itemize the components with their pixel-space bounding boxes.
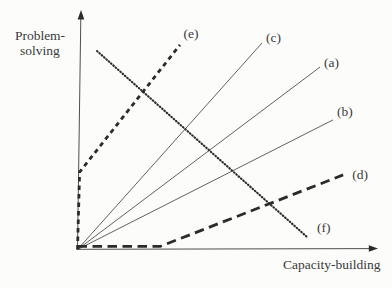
series-label-c: (c) (266, 30, 281, 45)
series-line-b (78, 120, 333, 250)
x-axis (78, 249, 371, 250)
series-line-d (78, 175, 344, 247)
y-axis-arrowhead-icon (78, 10, 85, 20)
conceptual-line-chart: (a)(b)(c)(f)(d)(e) Problem- solving Capa… (0, 0, 392, 288)
series-label-b: (b) (337, 104, 353, 119)
series-line-f (97, 51, 307, 237)
series-line-a (78, 67, 321, 249)
series-line-e (78, 45, 180, 250)
series-line-c (78, 43, 263, 250)
series-label-a: (a) (324, 55, 339, 70)
y-axis-label-line2: solving (8, 43, 72, 58)
y-axis-label-line1: Problem- (8, 28, 72, 43)
series-label-d: (d) (352, 167, 368, 182)
x-axis-label: Capacity-building (283, 257, 380, 272)
series-layer: (a)(b)(c)(f)(d)(e) (78, 26, 368, 249)
y-axis-label: Problem- solving (8, 28, 72, 58)
series-label-e: (e) (183, 26, 198, 41)
series-label-f: (f) (317, 220, 331, 235)
x-axis-arrowhead-icon (369, 245, 378, 252)
